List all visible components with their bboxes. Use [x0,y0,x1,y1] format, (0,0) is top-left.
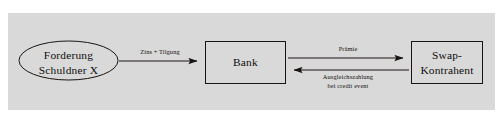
edge-label-settlement: Ausgleichszahlung bei credit event [292,72,404,91]
edge-settlement-line1: Ausgleichszahlung [292,72,404,81]
node-counterparty-line2: Kontrahent [411,63,483,78]
edge-settlement-line2: bei credit event [292,81,404,90]
node-bank-line1: Bank [205,55,286,70]
edge-label-premium: Prämie [292,44,404,53]
edge-premium-line1: Prämie [292,44,404,53]
node-counterparty-line1: Swap- [411,48,483,63]
diagram-screenshot: Forderung Schuldner X Bank Swap- Kontrah… [0,0,496,125]
node-label-debtor: Forderung Schuldner X [19,48,118,77]
edge-interest-line1: Zins + Tilgung [113,47,207,56]
edge-label-interest: Zins + Tilgung [113,47,207,56]
node-label-bank: Bank [205,55,286,70]
node-label-counterparty: Swap- Kontrahent [411,48,483,77]
node-debtor-line1: Forderung [19,48,118,63]
node-debtor-line2: Schuldner X [19,63,118,78]
